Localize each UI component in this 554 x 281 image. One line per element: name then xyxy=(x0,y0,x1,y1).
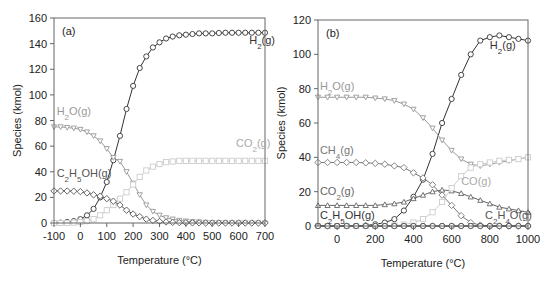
data-point xyxy=(203,158,208,163)
data-point xyxy=(150,164,155,169)
data-point xyxy=(459,72,464,77)
data-point xyxy=(196,31,201,36)
x-tick-label: 100 xyxy=(98,230,116,242)
data-point xyxy=(144,54,149,59)
data-point xyxy=(91,217,96,222)
y-tick-label: 0 xyxy=(41,217,47,229)
data-point xyxy=(223,30,228,35)
y-tick-label: 20 xyxy=(299,186,311,198)
data-point xyxy=(236,158,241,163)
x-tick-label: 0 xyxy=(77,230,83,242)
data-point xyxy=(430,151,435,156)
series-label: H2O(g) xyxy=(57,105,91,122)
data-point xyxy=(183,32,188,37)
data-point xyxy=(392,217,397,222)
x-tick-label: 400 xyxy=(177,230,195,242)
data-point xyxy=(137,213,143,219)
data-point xyxy=(516,36,521,41)
chart-panel-b: 02040608010012002004006008001000 (b) Tem… xyxy=(275,14,540,269)
data-point xyxy=(401,208,406,213)
x-tick-label: 800 xyxy=(481,233,499,245)
x-tick-label: 600 xyxy=(229,230,247,242)
data-point xyxy=(71,188,77,194)
data-point xyxy=(243,158,248,163)
x-tick-label: 300 xyxy=(150,230,168,242)
data-point xyxy=(459,157,464,162)
x-tick-label: 200 xyxy=(366,233,384,245)
data-point xyxy=(236,30,241,35)
data-point xyxy=(229,30,234,35)
series-label: CO2(g) xyxy=(320,185,354,202)
data-point xyxy=(210,31,215,36)
data-point xyxy=(372,160,378,166)
data-point xyxy=(64,188,70,194)
data-point xyxy=(90,192,96,198)
data-point xyxy=(449,186,454,191)
y-tick-label: 60 xyxy=(299,117,311,129)
y-tick-label: 40 xyxy=(35,166,47,178)
data-point xyxy=(130,211,136,217)
series-label: H2(g) xyxy=(490,39,516,56)
data-point xyxy=(216,158,221,163)
data-point xyxy=(203,31,208,36)
data-point xyxy=(343,159,349,165)
data-point xyxy=(77,188,83,194)
data-point xyxy=(163,219,169,225)
data-point xyxy=(84,213,89,218)
data-point xyxy=(468,165,473,170)
data-point xyxy=(363,160,369,166)
data-point xyxy=(84,130,89,135)
series-labels-b: H2(g)H2O(g)CH4(g)CO2(g)CO(g)C2H5OH(g)C2H… xyxy=(320,39,532,225)
y-axis-label-b: Species (kmol) xyxy=(275,87,287,160)
data-point xyxy=(177,158,182,163)
y-tick-label: 20 xyxy=(35,191,47,203)
series-label: CO(g) xyxy=(461,175,491,187)
data-point xyxy=(183,158,188,163)
series-h2-g- xyxy=(315,33,530,229)
data-point xyxy=(124,170,129,175)
data-point xyxy=(143,216,149,222)
y-tick-label: 140 xyxy=(29,38,47,50)
y-tick-label: 120 xyxy=(29,63,47,75)
data-point xyxy=(124,190,129,195)
data-point xyxy=(506,157,511,162)
data-point xyxy=(137,65,142,70)
panel-label-a: (a) xyxy=(62,25,75,37)
data-point xyxy=(516,156,521,161)
data-point xyxy=(104,179,109,184)
data-point xyxy=(487,160,492,165)
data-point xyxy=(249,158,254,163)
data-point xyxy=(216,30,221,35)
chart-panel-a: 020406080100120140160-100010020030040050… xyxy=(11,12,275,266)
panel-label-b: (b) xyxy=(326,27,339,39)
x-tick-label: 0 xyxy=(334,233,340,245)
data-point xyxy=(190,31,195,36)
data-point xyxy=(163,160,168,165)
data-point xyxy=(210,158,215,163)
x-tick-label: 400 xyxy=(404,233,422,245)
data-point xyxy=(163,36,168,41)
x-tick-label: 500 xyxy=(203,230,221,242)
data-point xyxy=(117,159,122,164)
data-point xyxy=(137,174,142,179)
data-point xyxy=(150,209,155,214)
series-layer-a xyxy=(51,30,268,226)
y-tick-label: 60 xyxy=(35,140,47,152)
x-axis-label-b: Temperature (°C) xyxy=(381,257,465,269)
data-point xyxy=(157,161,162,166)
data-point xyxy=(117,133,122,138)
data-point xyxy=(91,206,96,211)
data-point xyxy=(144,168,149,173)
x-tick-label: -100 xyxy=(43,230,65,242)
data-point xyxy=(497,158,502,163)
y-tick-label: 120 xyxy=(293,14,311,26)
data-point xyxy=(117,196,122,201)
x-axis-label-a: Temperature (°C) xyxy=(117,254,201,266)
data-point xyxy=(137,193,142,198)
data-point xyxy=(223,158,228,163)
data-point xyxy=(84,190,90,196)
x-tick-label: 600 xyxy=(442,233,460,245)
series-label: CH4(g) xyxy=(320,144,354,161)
data-point xyxy=(150,45,155,50)
series-h2o-g- xyxy=(315,95,530,168)
